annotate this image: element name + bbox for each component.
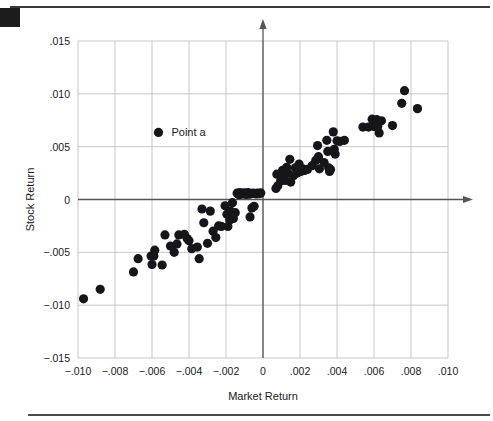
scatter-point xyxy=(170,248,179,257)
scatter-point xyxy=(256,188,265,197)
scatter-point xyxy=(377,116,386,125)
y-tick-label: 0 xyxy=(64,194,70,206)
scatter-point xyxy=(147,260,156,269)
x-tick-label: .004 xyxy=(327,365,348,377)
scatter-point xyxy=(231,208,240,217)
scatter-point xyxy=(160,230,169,239)
scatter-point xyxy=(184,236,193,245)
scatter-point xyxy=(211,233,220,242)
scatter-point xyxy=(329,127,338,136)
x-tick-label: 0 xyxy=(260,365,266,377)
scatter-points xyxy=(79,86,422,303)
scatter-point xyxy=(195,254,204,263)
x-tick-label: .002 xyxy=(290,365,311,377)
y-axis-arrowhead xyxy=(259,19,266,29)
scatter-point xyxy=(228,198,237,207)
legend-label: Point a xyxy=(171,126,206,138)
scatter-point xyxy=(375,128,384,137)
y-tick-label: .005 xyxy=(50,141,71,153)
y-tick-label: −.015 xyxy=(43,352,70,364)
scatter-point xyxy=(397,99,406,108)
x-axis-title: Market Return xyxy=(228,390,298,402)
x-tick-label: .010 xyxy=(438,365,459,377)
legend-marker-icon xyxy=(154,128,163,137)
scatter-point xyxy=(331,149,340,158)
scatter-point xyxy=(400,86,409,95)
scatter-point xyxy=(79,294,88,303)
x-tick-labels: −.010−.008−.006−.004−.0020.002.004.006.0… xyxy=(65,365,459,377)
x-tick-label: .006 xyxy=(364,365,385,377)
legend: Point a xyxy=(154,126,207,138)
x-axis-arrowhead xyxy=(463,196,473,203)
x-tick-label: −.010 xyxy=(65,365,92,377)
scatter-point xyxy=(326,165,335,174)
scatter-point xyxy=(197,204,206,213)
scatter-point xyxy=(322,136,331,145)
scatter-point xyxy=(313,141,322,150)
scatter-point xyxy=(413,104,422,113)
scatter-point xyxy=(158,260,167,269)
x-tick-label: −.006 xyxy=(139,365,166,377)
scatter-point xyxy=(245,212,254,221)
scatter-point xyxy=(193,242,202,251)
scatter-point xyxy=(203,239,212,248)
scatter-point xyxy=(172,239,181,248)
scatter-point xyxy=(199,218,208,227)
x-tick-label: −.002 xyxy=(213,365,240,377)
x-tick-label: −.004 xyxy=(176,365,203,377)
y-tick-labels: .015.010.0050−.005−.010−.015 xyxy=(43,35,70,364)
scatter-point xyxy=(340,136,349,145)
scatter-point xyxy=(206,207,215,216)
y-tick-label: .010 xyxy=(50,88,71,100)
scatter-point xyxy=(285,155,294,164)
scatter-point xyxy=(250,202,259,211)
y-axis-title: Stock Return xyxy=(24,168,36,232)
x-tick-label: −.008 xyxy=(102,365,129,377)
y-tick-label: .015 xyxy=(50,35,71,47)
scatter-point xyxy=(150,246,159,255)
figure-container: −.010−.008−.006−.004−.0020.002.004.006.0… xyxy=(0,0,493,421)
scatter-point xyxy=(96,285,105,294)
x-tick-label: .008 xyxy=(401,365,422,377)
y-tick-label: −.005 xyxy=(43,246,70,258)
scatter-point xyxy=(134,254,143,263)
scatter-point xyxy=(388,121,397,130)
y-tick-label: −.010 xyxy=(43,299,70,311)
scatter-plot: −.010−.008−.006−.004−.0020.002.004.006.0… xyxy=(0,0,493,421)
scatter-point xyxy=(129,267,138,276)
